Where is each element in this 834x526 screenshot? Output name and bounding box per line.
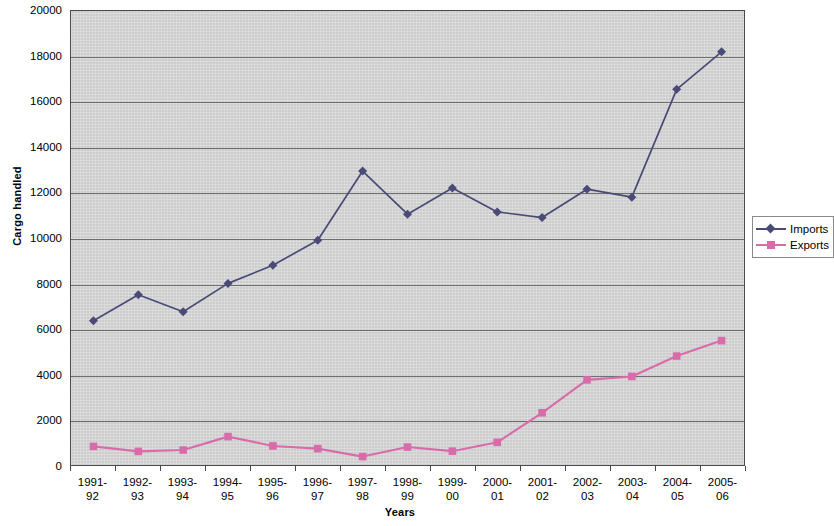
y-tick-label: 16000 <box>8 95 62 107</box>
y-tick-label: 2000 <box>8 414 62 426</box>
x-axis-title: Years <box>0 506 800 518</box>
y-tick-label: 18000 <box>8 50 62 62</box>
data-point <box>179 446 187 454</box>
y-tick-label: 12000 <box>8 186 62 198</box>
data-point <box>314 445 322 453</box>
x-tick-mark <box>205 466 206 471</box>
x-tick-mark <box>160 466 161 471</box>
data-point <box>582 185 591 194</box>
x-tick-mark <box>655 466 656 471</box>
y-tick-label: 10000 <box>8 232 62 244</box>
legend-label: Exports <box>786 239 829 251</box>
x-tick-mark <box>520 466 521 471</box>
series-imports <box>89 47 726 325</box>
x-tick-mark <box>430 466 431 471</box>
x-tick-mark <box>115 466 116 471</box>
y-tick-label: 6000 <box>8 323 62 335</box>
y-tick-label: 4000 <box>8 369 62 381</box>
x-tick-mark <box>385 466 386 471</box>
data-point <box>449 447 457 455</box>
x-tick-mark <box>745 466 746 471</box>
y-tick-label: 20000 <box>8 4 62 16</box>
data-point <box>224 433 232 441</box>
data-point <box>628 373 636 381</box>
y-tick-label: 14000 <box>8 141 62 153</box>
data-point <box>538 213 547 222</box>
plot-area <box>70 10 745 466</box>
series-exports <box>90 337 726 461</box>
data-point <box>404 443 412 451</box>
data-point <box>224 279 233 288</box>
legend-item-exports[interactable]: Exports <box>756 237 829 253</box>
series-line <box>93 341 721 457</box>
data-point <box>90 443 98 451</box>
data-point <box>493 439 501 447</box>
series-line <box>93 52 721 321</box>
x-tick-mark <box>565 466 566 471</box>
legend-label: Imports <box>786 223 828 235</box>
data-point <box>583 376 591 384</box>
data-point <box>268 261 277 270</box>
y-tick-label: 8000 <box>8 278 62 290</box>
data-point <box>313 236 322 245</box>
y-tick-label: 0 <box>8 460 62 472</box>
x-tick-mark <box>295 466 296 471</box>
data-point <box>179 307 188 316</box>
data-point <box>135 448 143 456</box>
legend-key-imports-icon <box>756 222 786 236</box>
x-tick-label-line: 06 <box>695 489 751 503</box>
x-tick-mark <box>475 466 476 471</box>
chart-legend: ImportsExports <box>752 216 834 258</box>
data-point <box>538 409 546 417</box>
legend-item-imports[interactable]: Imports <box>756 221 829 237</box>
data-point <box>493 207 502 216</box>
data-point <box>673 352 681 360</box>
x-tick-mark <box>70 466 71 471</box>
data-point <box>718 337 726 345</box>
x-tick-label: 2005-06 <box>695 475 751 503</box>
x-tick-label-line: 2005- <box>695 475 751 489</box>
legend-key-exports-icon <box>756 238 786 252</box>
x-tick-mark <box>250 466 251 471</box>
data-point <box>89 316 98 325</box>
data-point <box>269 442 277 450</box>
data-point <box>448 184 457 193</box>
x-tick-mark <box>700 466 701 471</box>
series-layer <box>71 11 744 465</box>
data-point <box>627 193 636 202</box>
x-tick-mark <box>610 466 611 471</box>
data-point <box>134 290 143 299</box>
x-tick-mark <box>340 466 341 471</box>
y-axis-tick-labels: 0200040006000800010000120001400016000180… <box>0 0 62 526</box>
data-point <box>359 453 367 461</box>
